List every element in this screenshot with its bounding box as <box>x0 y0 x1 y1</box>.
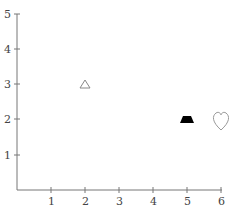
y-axis: 5 4 3 2 1 <box>4 8 20 190</box>
data-points <box>80 80 229 130</box>
x-tick-label: 5 <box>184 195 191 208</box>
triangle-marker <box>80 80 90 88</box>
trapezoid-marker <box>180 116 194 123</box>
x-tick-label: 3 <box>116 195 123 208</box>
x-axis: 1 2 3 4 5 6 <box>17 187 225 208</box>
x-tick-label: 4 <box>150 195 157 208</box>
y-tick-label: 1 <box>4 149 11 162</box>
scatter-chart: 5 4 3 2 1 1 2 3 4 5 6 <box>0 0 229 211</box>
y-tick-label: 5 <box>4 8 11 21</box>
y-tick-label: 3 <box>4 78 11 91</box>
x-tick-label: 6 <box>218 195 225 208</box>
x-tick-label: 2 <box>82 195 89 208</box>
y-tick-label: 4 <box>4 43 11 56</box>
x-tick-label: 1 <box>48 195 55 208</box>
heart-marker <box>213 112 228 130</box>
y-tick-label: 2 <box>4 113 11 126</box>
